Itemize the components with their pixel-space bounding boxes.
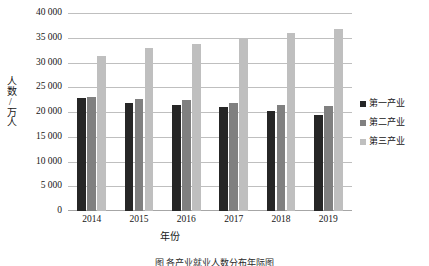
legend-label: 第三产业 bbox=[369, 132, 405, 151]
bar[interactable] bbox=[277, 105, 286, 211]
gridline bbox=[68, 186, 352, 187]
gridline bbox=[68, 63, 352, 64]
y-axis-tick-label: 15 000 bbox=[4, 132, 62, 141]
bar[interactable] bbox=[87, 97, 96, 211]
y-axis-tick-label: 5 000 bbox=[4, 181, 62, 190]
gridline bbox=[68, 137, 352, 138]
legend-item[interactable]: 第二产业 bbox=[360, 113, 405, 132]
y-axis-tick-label: 25 000 bbox=[4, 82, 62, 91]
bar[interactable] bbox=[135, 99, 144, 211]
x-axis-title: 年份 bbox=[0, 228, 429, 243]
legend-item[interactable]: 第一产业 bbox=[360, 94, 405, 113]
legend-label: 第二产业 bbox=[369, 113, 405, 132]
y-axis-tick-label: 0 bbox=[4, 206, 62, 215]
chart-figure: 人数/万人 05 00010 00015 00020 00025 00030 0… bbox=[0, 0, 429, 266]
bar[interactable] bbox=[229, 103, 238, 211]
legend-swatch-icon bbox=[360, 139, 366, 145]
bar[interactable] bbox=[125, 103, 134, 211]
plot-area bbox=[68, 13, 352, 211]
bar[interactable] bbox=[267, 111, 276, 211]
bar[interactable] bbox=[182, 100, 191, 211]
x-axis-tick-label: 2018 bbox=[257, 214, 304, 224]
bar[interactable] bbox=[324, 106, 333, 211]
bar[interactable] bbox=[97, 56, 106, 211]
x-axis-tick-label: 2015 bbox=[115, 214, 162, 224]
bar-group bbox=[77, 13, 106, 211]
gridline bbox=[68, 13, 352, 14]
gridline bbox=[68, 162, 352, 163]
x-axis-tick-label: 2019 bbox=[305, 214, 352, 224]
gridline bbox=[68, 112, 352, 113]
x-axis-tick-label: 2016 bbox=[163, 214, 210, 224]
legend-item[interactable]: 第三产业 bbox=[360, 132, 405, 151]
bar[interactable] bbox=[192, 44, 201, 211]
bar-group bbox=[219, 13, 248, 211]
bar-group bbox=[267, 13, 296, 211]
x-axis-title-text: 年份 bbox=[160, 231, 180, 242]
legend-swatch-icon bbox=[360, 101, 366, 107]
bar-group bbox=[125, 13, 154, 211]
bar[interactable] bbox=[145, 48, 154, 211]
y-axis-tick-label: 20 000 bbox=[4, 107, 62, 116]
bar[interactable] bbox=[314, 115, 323, 211]
bar[interactable] bbox=[287, 33, 296, 211]
y-axis-tick-label: 30 000 bbox=[4, 58, 62, 67]
bar[interactable] bbox=[77, 98, 86, 211]
x-axis-line bbox=[68, 210, 352, 211]
chart-legend: 第一产业第二产业第三产业 bbox=[360, 94, 405, 151]
y-axis-tick-label: 10 000 bbox=[4, 157, 62, 166]
legend-swatch-icon bbox=[360, 120, 366, 126]
gridline bbox=[68, 38, 352, 39]
bar-group bbox=[314, 13, 343, 211]
x-axis-tick-label: 2014 bbox=[68, 214, 115, 224]
bar[interactable] bbox=[219, 107, 228, 211]
y-axis-tick-label: 35 000 bbox=[4, 33, 62, 42]
bar[interactable] bbox=[172, 105, 181, 211]
bar-group bbox=[172, 13, 201, 211]
gridline bbox=[68, 87, 352, 88]
legend-label: 第一产业 bbox=[369, 94, 405, 113]
figure-caption: 图 各产业就业人数分布年际图 bbox=[0, 256, 429, 266]
bar[interactable] bbox=[239, 38, 248, 211]
y-axis-tick-label: 40 000 bbox=[4, 8, 62, 17]
bar[interactable] bbox=[334, 29, 343, 211]
x-axis-tick-label: 2017 bbox=[210, 214, 257, 224]
